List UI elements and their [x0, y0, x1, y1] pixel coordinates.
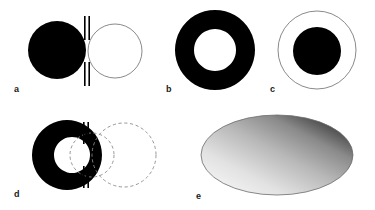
annulus-ring: [175, 10, 255, 90]
panel-label-d: d: [14, 190, 20, 199]
slit-bar-upper: [84, 16, 90, 40]
outlined-circle: [88, 24, 142, 78]
panel-label-e: e: [196, 192, 201, 201]
panel-c: [265, 0, 375, 105]
panel-b-graphic: [160, 0, 265, 105]
filled-disk: [28, 21, 86, 79]
panel-d-graphic: [0, 105, 180, 210]
gradient-ellipse: [201, 115, 353, 195]
slit-bar-lower: [84, 62, 90, 86]
panel-label-a: a: [14, 85, 19, 94]
panel-label-c: c: [270, 85, 275, 94]
panel-c-graphic: [265, 0, 375, 105]
panel-a: [0, 0, 160, 105]
panel-b: [160, 0, 265, 105]
panel-e-graphic: [180, 105, 375, 210]
annulus-ring: [32, 120, 102, 190]
panel-a-graphic: [0, 0, 160, 105]
inner-filled-disk: [293, 27, 341, 75]
panel-label-b: b: [166, 85, 172, 94]
panel-d: [0, 105, 180, 210]
panel-e: [180, 105, 375, 210]
figure-canvas: a b c d e: [0, 0, 375, 210]
